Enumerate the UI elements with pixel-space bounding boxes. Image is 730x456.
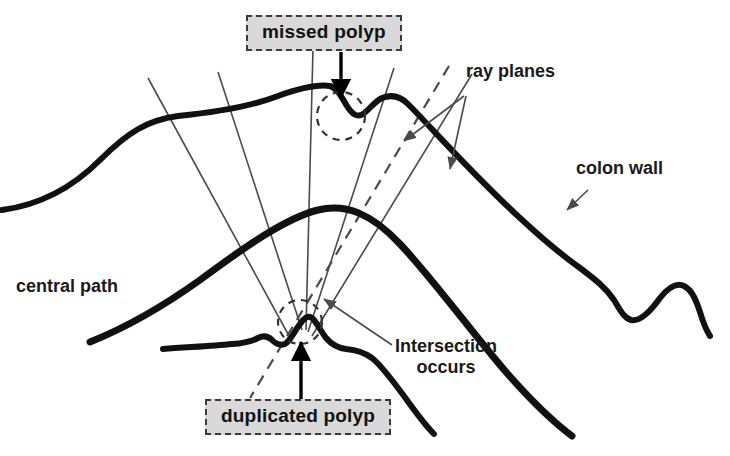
duplicated-polyp-label[interactable]: duplicated polyp <box>205 399 391 435</box>
central-path-label: central path <box>16 276 118 297</box>
colon-wall-label: colon wall <box>576 158 663 179</box>
intersection-occurs-label: Intersection occurs <box>371 336 521 377</box>
ray-planes-label: ray planes <box>466 61 555 82</box>
intersection-label-line1: Intersection <box>371 336 521 357</box>
intersection-label-line2: occurs <box>371 357 521 378</box>
colon-wall-leader <box>567 190 588 210</box>
ray-plane-lines <box>148 48 472 336</box>
diagram-canvas <box>0 0 730 456</box>
missed-polyp-label[interactable]: missed polyp <box>246 15 402 51</box>
colon-diagram: missed polyp duplicated polyp ray planes… <box>0 0 730 456</box>
